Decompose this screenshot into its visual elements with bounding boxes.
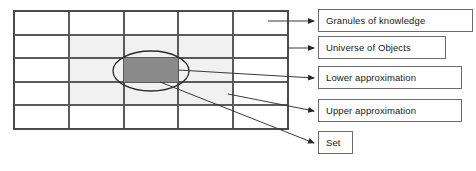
label-universe-of-objects[interactable]: Universe of Objects [318,36,446,59]
label-text: Upper approximation [326,106,416,116]
leader-line-upper-approximation [228,94,314,111]
label-set[interactable]: Set [318,131,353,154]
label-lower-approximation[interactable]: Lower approximation [318,66,462,89]
label-text: Universe of Objects [326,43,411,53]
label-upper-approximation[interactable]: Upper approximation [318,99,462,122]
label-text: Granules of knowledge [326,16,425,26]
label-granules-of-knowledge[interactable]: Granules of knowledge [318,9,473,32]
label-text: Set [326,138,341,148]
leader-line-set [160,82,314,143]
label-text: Lower approximation [326,73,416,83]
rough-set-diagram: Granules of knowledge Universe of Object… [0,0,476,171]
